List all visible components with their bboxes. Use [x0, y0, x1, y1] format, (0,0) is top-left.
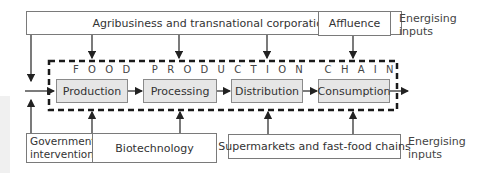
government-intervention-label: Government intervention: [30, 135, 95, 161]
agribusiness-label: Agribusiness and transnational corporati…: [92, 17, 335, 30]
stage-processing-label: Processing: [151, 85, 210, 98]
bottom-energising-inputs-label: Energising inputs: [408, 135, 478, 161]
stage-processing: Processing: [143, 79, 217, 103]
affluence-box: Affluence: [318, 11, 391, 36]
stage-distribution: Distribution: [231, 79, 303, 103]
biotechnology-box: Biotechnology: [92, 133, 217, 163]
top-energising-inputs-label: Energising inputs: [399, 12, 469, 38]
chain-title: FOOD PRODUCTION CHAIN: [73, 64, 403, 75]
stage-production: Production: [56, 79, 128, 103]
biotechnology-label: Biotechnology: [115, 142, 193, 155]
affluence-label: Affluence: [329, 17, 381, 30]
stage-consumption-label: Consumption: [318, 85, 391, 98]
supermarkets-label: Supermarkets and fast-food chains: [218, 140, 410, 153]
supermarkets-box: Supermarkets and fast-food chains: [228, 134, 401, 159]
stage-distribution-label: Distribution: [235, 85, 299, 98]
stage-production-label: Production: [63, 85, 122, 98]
stage-consumption: Consumption: [318, 79, 390, 103]
government-intervention-box: Government intervention: [26, 133, 93, 163]
